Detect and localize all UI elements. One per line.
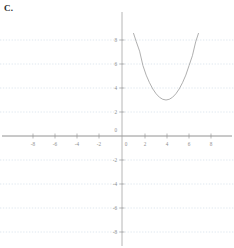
x-tick-label: 4: [166, 141, 169, 147]
x-tick-label: -8: [31, 141, 36, 147]
x-tick-label: -6: [53, 141, 58, 147]
parabola-curve: [134, 33, 199, 100]
axis-lines: [2, 12, 232, 246]
y-tick-label: 6: [114, 61, 117, 67]
y-tick-label-zero: 0: [114, 127, 117, 133]
x-tick-label: 8: [210, 141, 213, 147]
y-tick-label: -8: [113, 229, 118, 235]
y-tick-label: 2: [114, 109, 117, 115]
cartesian-plot: -8 -6 -4 -2 0 2 4 6 8 8 6 4 2 0 -2 -4 -6…: [0, 0, 234, 248]
x-tick-label-zero: 0: [125, 141, 128, 147]
y-tick-label: -2: [113, 157, 118, 163]
figure-container: C.: [0, 0, 234, 248]
y-tick-label: 4: [114, 85, 117, 91]
x-tick-label: -4: [75, 141, 80, 147]
y-tick-label: -4: [113, 181, 118, 187]
y-tick-label: -6: [113, 205, 118, 211]
x-tick-label: -2: [97, 141, 102, 147]
x-tick-label: 6: [188, 141, 191, 147]
y-tick-label: 8: [114, 37, 117, 43]
x-tick-label: 2: [144, 141, 147, 147]
